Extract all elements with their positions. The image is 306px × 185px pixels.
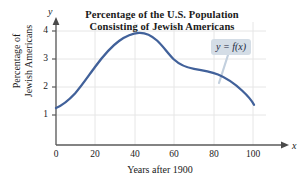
x-axis-caption: Years after 1900	[60, 164, 260, 175]
x-tick-label-100: 100	[242, 149, 264, 159]
y-tick-label-2: 2	[36, 81, 48, 91]
y-axis	[52, 17, 59, 145]
curve-function-callout: y = f(x)	[211, 39, 251, 55]
x-axis-variable-label: x	[292, 140, 296, 151]
y-tick-label-1: 1	[36, 109, 48, 119]
chart-figure: Percentage of the U.S. Population Consis…	[0, 0, 306, 185]
x-axis	[56, 142, 289, 149]
x-tick-label-0: 0	[45, 149, 67, 159]
x-tick-label-60: 60	[163, 149, 185, 159]
x-tick-label-80: 80	[203, 149, 225, 159]
x-tick-label-20: 20	[84, 149, 106, 159]
y-tick-label-3: 3	[36, 53, 48, 63]
y-tick-label-4: 4	[36, 25, 48, 35]
chart-title-line-1: Percentage of the U.S. Population	[62, 9, 262, 20]
y-axis-variable-label: y	[48, 6, 52, 17]
chart-title-line-2: Consisting of Jewish Americans	[62, 21, 262, 32]
x-tick-label-40: 40	[124, 149, 146, 159]
y-axis-caption-line-1: Percentage of	[11, 34, 23, 89]
y-axis-caption: Percentage of Jewish Americans	[10, 11, 36, 111]
y-axis-caption-line-2: Jewish Americans	[23, 25, 35, 98]
